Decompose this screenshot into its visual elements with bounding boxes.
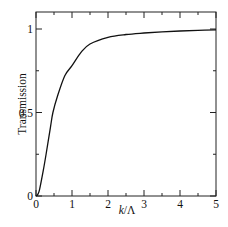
x-tick-label: 1 <box>69 198 75 210</box>
x-tick-label: 2 <box>105 198 111 210</box>
transmission-chart: 012345 00.51 Transmission k/Λ <box>0 0 228 227</box>
x-tick-label: 4 <box>177 198 183 210</box>
x-axis-label-denom: Λ <box>127 204 136 216</box>
axis-ticks <box>36 12 216 196</box>
transmission-curve <box>36 30 216 196</box>
y-tick-label: 0 <box>27 190 33 202</box>
plot-frame <box>36 12 216 196</box>
x-axis-label: k/Λ <box>119 204 136 216</box>
x-tick-label: 5 <box>213 198 219 210</box>
y-tick-label: 1 <box>27 23 33 35</box>
x-tick-label: 3 <box>141 198 147 210</box>
y-axis-label: Transmission <box>16 73 28 135</box>
x-tick-label: 0 <box>33 198 39 210</box>
